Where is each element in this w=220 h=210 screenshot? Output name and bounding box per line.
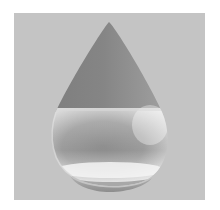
water-drop: [40, 15, 180, 195]
water-drop-illustration: [0, 0, 220, 210]
